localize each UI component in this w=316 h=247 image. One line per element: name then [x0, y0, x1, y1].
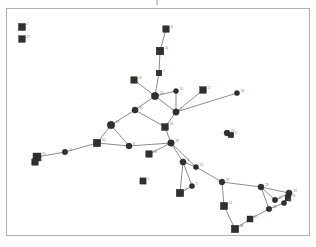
graph-edge — [183, 162, 192, 186]
graph-node-label: 36 — [288, 199, 292, 203]
graph-node-label: 37 — [226, 178, 230, 182]
graph-node-label: 3 — [196, 182, 198, 186]
graph-node[interactable] — [234, 90, 239, 95]
graph-node[interactable] — [140, 178, 146, 184]
graph-node[interactable] — [247, 216, 253, 222]
graph-edge — [261, 187, 289, 193]
graph-node-label: 20 — [139, 106, 143, 110]
graph-edge — [111, 110, 135, 125]
graph-node[interactable] — [228, 132, 233, 137]
graph-node-label: 40 — [102, 138, 106, 142]
graph-node[interactable] — [107, 121, 115, 129]
graph-node-label: 21 — [254, 215, 258, 219]
top-tick-mark — [156, 0, 158, 5]
figure-root: 2271116713241017346202926338402314153125… — [0, 0, 316, 247]
graph-node[interactable] — [151, 92, 158, 99]
node-layer — [19, 24, 293, 233]
graph-node-label: 19 — [293, 189, 297, 193]
graph-node-label: 9 — [185, 188, 187, 192]
graph-node-label: 31 — [39, 158, 43, 162]
graph-node[interactable] — [231, 225, 238, 232]
graph-node-label: 14 — [69, 148, 73, 152]
graph-edge — [111, 125, 129, 146]
graph-node[interactable] — [132, 107, 138, 113]
graph-node[interactable] — [62, 149, 68, 155]
graph-node[interactable] — [200, 87, 207, 94]
graph-node[interactable] — [266, 206, 272, 212]
graph-node-label: 24 — [160, 91, 164, 95]
graph-node[interactable] — [193, 164, 198, 169]
graph-node[interactable] — [189, 183, 194, 188]
graph-node[interactable] — [32, 159, 38, 165]
graph-node[interactable] — [219, 179, 225, 185]
graph-node-label: 6 — [180, 108, 182, 112]
graph-node[interactable] — [281, 200, 286, 205]
graph-node-label: 18 — [273, 205, 277, 209]
graph-node[interactable] — [19, 24, 26, 31]
graph-node-label: 29 — [116, 120, 120, 124]
graph-node-label: 7 — [163, 69, 165, 73]
graph-edge — [180, 162, 183, 193]
graph-node-label: 1 — [187, 158, 189, 162]
graph-node[interactable] — [174, 89, 179, 94]
graph-node-label: 12 — [229, 201, 233, 205]
graph-node[interactable] — [258, 184, 264, 190]
graph-node[interactable] — [156, 70, 162, 76]
graph-node[interactable] — [163, 26, 169, 32]
graph-node-label: 28 — [265, 183, 269, 187]
graph-node[interactable] — [220, 202, 227, 209]
graph-edge — [222, 182, 261, 187]
graph-node[interactable] — [146, 151, 152, 157]
graph-canvas: 2271116713241017346202926338402314153125… — [7, 9, 311, 237]
graph-node-label: 16 — [165, 46, 169, 50]
graph-node[interactable] — [176, 189, 183, 196]
graph-edge — [97, 143, 129, 146]
graph-node-label: 22 — [279, 196, 283, 200]
graph-node-label: 13 — [138, 76, 142, 80]
graph-node-label: 4 — [235, 131, 237, 135]
graph-edge — [155, 96, 176, 112]
graph-node-label: 15 — [42, 152, 46, 156]
graph-edge — [196, 167, 222, 182]
graph-node-label: 38 — [240, 224, 244, 228]
graph-node[interactable] — [131, 77, 137, 83]
graph-edge — [129, 143, 171, 146]
graph-node-label: 41 — [200, 163, 204, 167]
graph-node-label: 23 — [153, 150, 157, 154]
graph-node-label: 2 — [27, 22, 29, 26]
graph-node[interactable] — [156, 47, 164, 55]
graph-node-label: 8 — [133, 142, 135, 146]
plot-frame: 2271116713241017346202926338402314153125… — [6, 8, 310, 236]
graph-node-label: 27 — [26, 35, 30, 39]
graph-node-label: 26 — [170, 122, 174, 126]
graph-node-label: 34 — [241, 89, 245, 93]
graph-node[interactable] — [19, 36, 26, 43]
graph-node[interactable] — [180, 159, 186, 165]
graph-node[interactable] — [93, 139, 100, 146]
graph-edge — [135, 110, 165, 127]
graph-node[interactable] — [126, 143, 132, 149]
graph-node[interactable] — [162, 124, 169, 131]
graph-node-label: 5 — [147, 177, 149, 181]
graph-node-label: 33 — [175, 139, 179, 143]
graph-node[interactable] — [272, 197, 277, 202]
graph-edge — [176, 93, 237, 112]
graph-node-label: 11 — [170, 25, 173, 29]
graph-node-label: 17 — [207, 86, 211, 90]
graph-node-label: 10 — [180, 87, 184, 91]
graph-node-label: 30 — [292, 194, 296, 198]
graph-node[interactable] — [168, 140, 175, 147]
graph-node[interactable] — [173, 109, 179, 115]
